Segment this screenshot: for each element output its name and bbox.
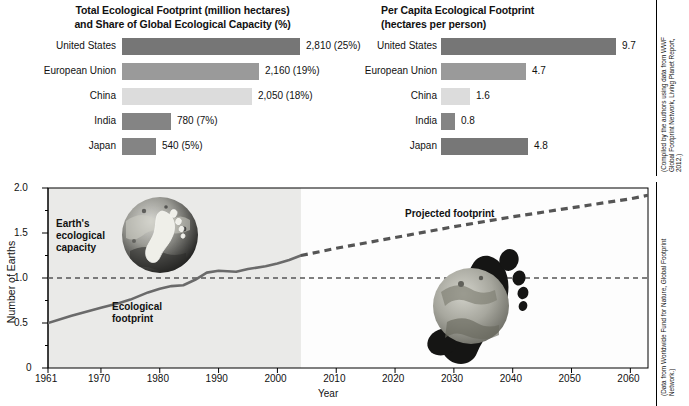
x-tick-1961: 1961 — [35, 373, 57, 384]
y-tick-1-0: 1.0 — [14, 272, 28, 283]
x-axis-title: Year — [318, 388, 338, 399]
bar-category-label: United States — [351, 40, 437, 51]
y-tick-1-5: 1.5 — [14, 227, 28, 238]
total-footprint-title-line2: and Share of Global Ecological Capacity … — [74, 18, 290, 30]
bar-value-label: 540 (5%) — [162, 140, 203, 151]
bar-category-label: Japan — [8, 140, 116, 151]
bar-rect — [122, 113, 171, 130]
bar-category-label: China — [8, 90, 116, 101]
infographic-figure: Total Ecological Footprint (million hect… — [0, 0, 689, 406]
x-tick-2040: 2040 — [500, 373, 522, 384]
bar-category-label: Japan — [351, 140, 437, 151]
total-footprint-title: Total Ecological Footprint (million hect… — [26, 4, 339, 31]
capacity-annotation-line1: Earth's — [56, 218, 90, 230]
total-footprint-panel: Total Ecological Footprint (million hect… — [0, 0, 345, 178]
bar-row: India0.8 — [345, 111, 645, 136]
per-capita-title-line1: Per Capita Ecological Footprint — [381, 4, 534, 16]
bar-rect — [122, 138, 156, 155]
x-tick-2020: 2020 — [382, 373, 404, 384]
per-capita-footprint-title: Per Capita Ecological Footprint (hectare… — [359, 4, 617, 31]
x-tick-2030: 2030 — [441, 373, 463, 384]
bar-value-label: 1.6 — [476, 90, 490, 101]
bar-value-label: 4.8 — [534, 140, 548, 151]
per-capita-title-line2: (hectares per person) — [381, 18, 486, 30]
per-capita-footprint-bars: United States9.7European Union4.7China1.… — [345, 36, 645, 161]
bar-category-label: India — [8, 115, 116, 126]
bar-rect — [441, 88, 470, 105]
bar-row: China2,050 (18%) — [0, 86, 345, 111]
bar-row: European Union4.7 — [345, 61, 645, 86]
y-axis — [42, 188, 48, 368]
globe-footprint-icon-small — [122, 197, 198, 273]
bar-row: European Union2,160 (19%) — [0, 61, 345, 86]
x-tick-1990: 1990 — [206, 373, 228, 384]
x-tick-2010: 2010 — [323, 373, 345, 384]
bar-value-label: 2,160 (19%) — [265, 65, 319, 76]
projected-annotation: Projected footprint — [405, 208, 494, 220]
x-tick-2060: 2060 — [617, 373, 639, 384]
bar-row: China1.6 — [345, 86, 645, 111]
bar-category-label: European Union — [351, 65, 437, 76]
footprint-annotation-line1: Ecological — [112, 301, 162, 313]
bar-category-label: China — [351, 90, 437, 101]
bar-category-label: India — [351, 115, 437, 126]
bar-value-label: 4.7 — [532, 65, 546, 76]
x-tick-1970: 1970 — [88, 373, 110, 384]
credit-text-top: (Compiled by the authors using data from… — [660, 34, 684, 172]
bar-rect — [441, 138, 528, 155]
bar-rect — [441, 113, 455, 130]
bar-row: India780 (7%) — [0, 111, 345, 136]
bar-rect — [122, 88, 252, 105]
bar-value-label: 9.7 — [622, 40, 636, 51]
y-tick-2-0: 2.0 — [14, 182, 28, 193]
x-tick-1980: 1980 — [147, 373, 169, 384]
total-footprint-title-line1: Total Ecological Footprint (million hect… — [75, 4, 289, 16]
bar-rect — [441, 63, 526, 80]
ecological-footprint-line-chart: Number of Earths 0 0.5 1.0 1.5 2.0 19611… — [0, 180, 659, 406]
bar-rect — [122, 63, 259, 80]
credit-divider-top — [656, 0, 657, 176]
bar-rect — [441, 38, 616, 55]
bar-category-label: United States — [8, 40, 116, 51]
x-tick-2000: 2000 — [264, 373, 286, 384]
bar-row: United States9.7 — [345, 36, 645, 61]
bar-value-label: 0.8 — [461, 115, 475, 126]
bar-category-label: European Union — [8, 65, 116, 76]
bar-row: Japan4.8 — [345, 136, 645, 161]
bar-value-label: 2,050 (18%) — [258, 90, 312, 101]
capacity-annotation-line2: ecological — [56, 230, 105, 242]
y-tick-0-5: 0.5 — [14, 317, 28, 328]
capacity-annotation-line3: capacity — [56, 242, 96, 254]
bar-rect — [122, 38, 300, 55]
footprint-annotation-line2: footprint — [112, 313, 153, 325]
bar-row: United States2,810 (25%) — [0, 36, 345, 61]
per-capita-footprint-panel: Per Capita Ecological Footprint (hectare… — [345, 0, 645, 178]
credit-text-bottom: (Data from Worldwide Fund for Nature, Gl… — [660, 236, 680, 396]
y-tick-0: 0 — [26, 362, 32, 373]
bar-value-label: 780 (7%) — [177, 115, 218, 126]
bar-row: Japan540 (5%) — [0, 136, 345, 161]
x-tick-2050: 2050 — [559, 373, 581, 384]
total-footprint-bars: United States2,810 (25%)European Union2,… — [0, 36, 345, 161]
